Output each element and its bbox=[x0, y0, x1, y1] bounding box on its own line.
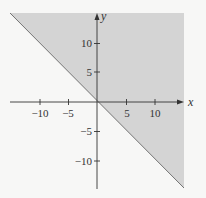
y-tick-label: 5 bbox=[87, 66, 93, 78]
x-tick-label: 10 bbox=[150, 107, 162, 119]
x-tick-label: −5 bbox=[62, 107, 74, 119]
y-tick-label: 10 bbox=[81, 37, 93, 49]
y-tick-label: −5 bbox=[80, 125, 92, 137]
y-tick-label: −10 bbox=[75, 155, 93, 167]
x-tick-label: 5 bbox=[124, 107, 130, 119]
y-axis-label: y bbox=[100, 9, 107, 23]
x-tick-label: −10 bbox=[31, 107, 49, 119]
inequality-graph: x y −10 −5 5 10 10 5 −5 −10 bbox=[0, 0, 206, 198]
x-axis-label: x bbox=[187, 95, 194, 109]
